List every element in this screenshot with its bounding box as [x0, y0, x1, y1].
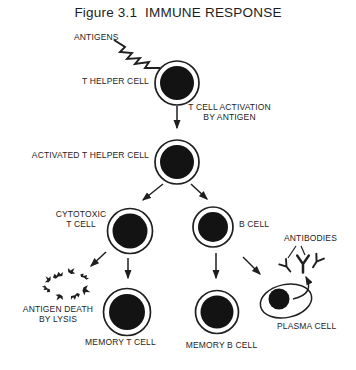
memory-b-cell-node — [196, 291, 239, 334]
memory-b-cell-label: MEMORY B CELL — [171, 340, 272, 350]
cytotoxic-t-cell-label: CYTOTOXIC T CELL — [46, 209, 116, 229]
memory-t-cell-label: MEMORY T CELL — [70, 337, 171, 347]
plasma-cell-label: PLASMA CELL — [277, 321, 336, 331]
memory-t-cell-node — [104, 289, 151, 336]
arrow-to-antigen-death — [91, 252, 106, 266]
antigens-label: ANTIGENS — [74, 32, 119, 42]
antibodies-label: ANTIBODIES — [284, 233, 337, 243]
b-cell-label: B CELL — [239, 219, 269, 229]
arrow-to-cytotoxic — [143, 184, 163, 200]
figure-title: Figure 3.1 IMMUNE RESPONSE — [0, 5, 356, 20]
antigen-debris-fragments — [41, 267, 91, 301]
t-helper-cell-node — [155, 61, 199, 105]
arrow-to-b-cell — [191, 184, 207, 199]
antigen-death-label: ANTIGEN DEATH BY LYSIS — [16, 304, 100, 324]
antigen-zigzag-line — [114, 40, 160, 68]
immune-response-figure: Figure 3.1 IMMUNE RESPONSE ANTIGENS T HE… — [0, 0, 356, 370]
b-cell-node — [193, 207, 233, 247]
t-helper-cell-label: T HELPER CELL — [58, 76, 149, 86]
activated-t-helper-cell-label: ACTIVATED T HELPER CELL — [30, 150, 149, 160]
plasma-cell-node — [257, 279, 315, 322]
t-cell-activation-label: T CELL ACTIVATION BY ANTIGEN — [186, 102, 273, 122]
activated-t-helper-cell-node — [155, 140, 199, 184]
antibody-y-icons — [279, 254, 324, 274]
arrow-to-plasma-cell — [243, 257, 260, 274]
